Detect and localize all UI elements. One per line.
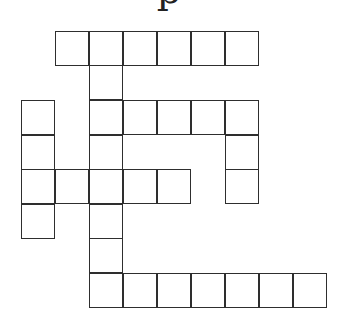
crossword-cell[interactable] [225,31,259,66]
crossword-cell[interactable] [21,100,55,135]
crossword-cell[interactable] [225,273,259,308]
crossword-cell[interactable] [21,169,55,204]
crossword-cell[interactable] [157,273,191,308]
crossword-cell[interactable] [89,100,123,135]
crossword-grid [0,0,338,332]
crossword-cell[interactable] [157,100,191,135]
crossword-cell[interactable] [89,204,123,239]
crossword-cell[interactable] [191,273,225,308]
crossword-cell[interactable] [123,169,157,204]
crossword-cell[interactable] [225,135,259,170]
crossword-cell[interactable] [89,238,123,273]
crossword-cell[interactable] [89,135,123,170]
crossword-cell[interactable] [55,31,89,66]
crossword-cell[interactable] [225,169,259,204]
crossword-cell[interactable] [225,100,259,135]
crossword-cell[interactable] [191,31,225,66]
crossword-cell[interactable] [89,65,123,100]
crossword-cell[interactable] [293,273,327,308]
crossword-cell[interactable] [89,273,123,308]
crossword-cell[interactable] [123,31,157,66]
crossword-cell[interactable] [157,31,191,66]
crossword-cell[interactable] [157,169,191,204]
crossword-cell[interactable] [123,273,157,308]
crossword-cell[interactable] [89,169,123,204]
crossword-cell[interactable] [123,100,157,135]
crossword-cell[interactable] [89,31,123,66]
crossword-cell[interactable] [259,273,293,308]
crossword-cell[interactable] [55,169,89,204]
crossword-cell[interactable] [21,204,55,239]
crossword-cell[interactable] [191,100,225,135]
crossword-cell[interactable] [21,135,55,170]
